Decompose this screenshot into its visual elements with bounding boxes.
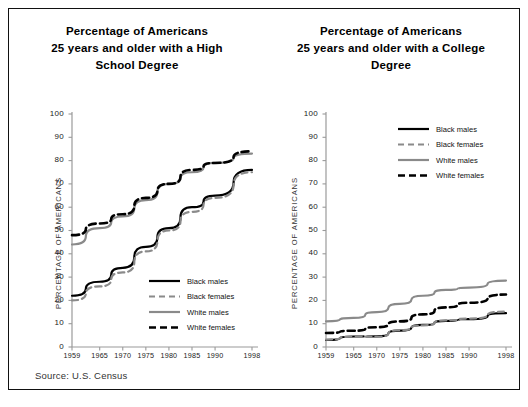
legend-label-black_females: Black females — [187, 292, 234, 301]
series-line-white_females — [326, 295, 506, 333]
panel-college: Percentage of Americans 25 years and old… — [263, 9, 519, 391]
chart-svg-college: Black malesBlack femalesWhite malesWhite… — [263, 9, 519, 391]
panel-high-school: Percentage of Americans 25 years and old… — [9, 9, 265, 391]
legend-high-school: Black malesBlack femalesWhite malesWhite… — [149, 277, 235, 333]
y-tick-label: 0 — [38, 342, 64, 351]
source-note: Source: U.S. Census — [35, 370, 128, 381]
x-tick-label: 1959 — [313, 351, 339, 360]
x-tick-label: 1990 — [202, 351, 228, 360]
legend-label-white_females: White females — [187, 323, 235, 332]
y-tick-label: 60 — [38, 202, 64, 211]
x-tick-label: 1959 — [59, 351, 85, 360]
y-tick-label: 90 — [292, 132, 318, 141]
y-tick-label: 0 — [292, 342, 318, 351]
y-tick-label: 30 — [38, 272, 64, 281]
plot-area-high-school: 0102030405060708090100195919651970197519… — [9, 9, 265, 391]
y-tick-label: 90 — [38, 132, 64, 141]
legend-label-white_males: White males — [187, 308, 229, 317]
y-tick-label: 50 — [38, 225, 64, 234]
x-tick-label: 1990 — [456, 351, 482, 360]
legend-label-white_females: White females — [436, 171, 484, 180]
y-tick-label: 40 — [38, 248, 64, 257]
legend-college: Black malesBlack femalesWhite malesWhite… — [398, 125, 484, 181]
y-tick-label: 70 — [38, 178, 64, 187]
legend-label-black_males: Black males — [436, 125, 477, 134]
figure-root: Percentage of Americans 25 years and old… — [0, 0, 528, 407]
series-line-white_males — [72, 154, 252, 245]
y-tick-label: 80 — [292, 155, 318, 164]
y-tick-label: 80 — [38, 155, 64, 164]
y-axis-label-college: PERCENTAGE OF AMERICANS — [290, 177, 299, 309]
plot-area-college: 0102030405060708090100195919651970197519… — [263, 9, 519, 391]
y-tick-label: 10 — [292, 318, 318, 327]
chart-svg-high-school: Black malesBlack femalesWhite malesWhite… — [9, 9, 265, 391]
y-tick-label: 10 — [38, 318, 64, 327]
y-tick-label: 100 — [38, 109, 64, 118]
legend-label-black_males: Black males — [187, 277, 228, 286]
legend-label-white_males: White males — [436, 156, 478, 165]
x-tick-label: 1998 — [239, 351, 265, 360]
figure-border: Percentage of Americans 25 years and old… — [8, 8, 520, 390]
y-tick-label: 100 — [292, 109, 318, 118]
y-tick-label: 20 — [38, 295, 64, 304]
x-tick-label: 1998 — [493, 351, 519, 360]
legend-label-black_females: Black females — [436, 140, 483, 149]
